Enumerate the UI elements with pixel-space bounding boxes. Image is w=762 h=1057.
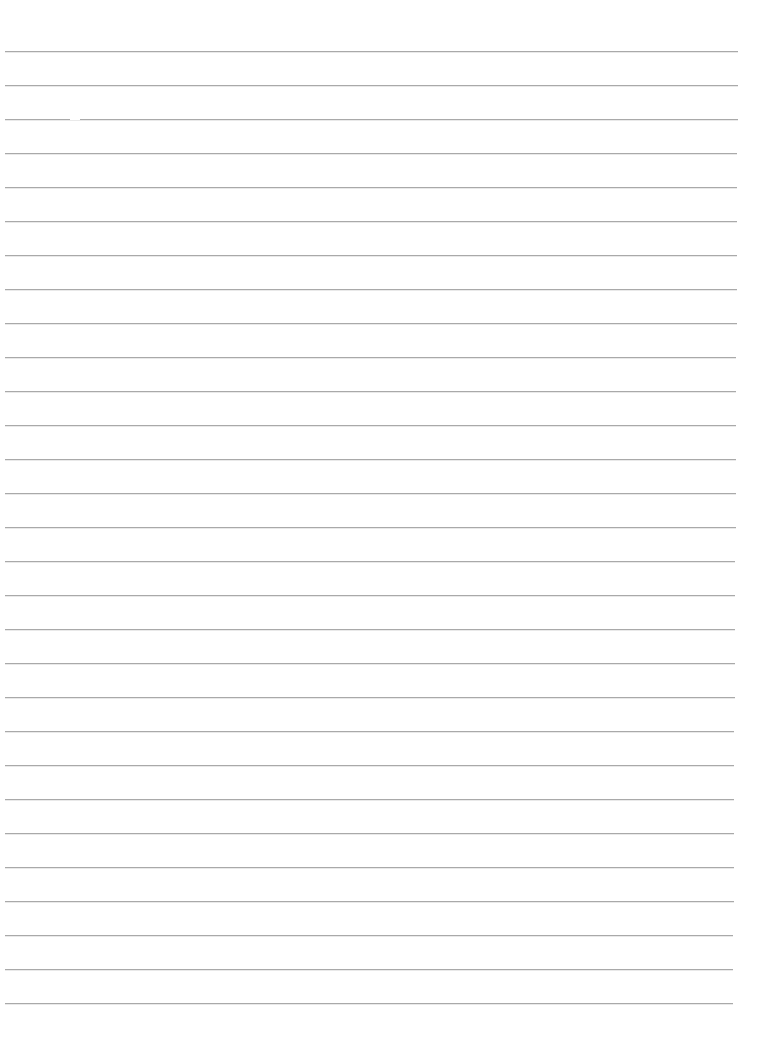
ruled-line (5, 425, 736, 426)
ruled-line (5, 119, 738, 120)
ruled-line (5, 663, 735, 664)
ruled-line (5, 459, 736, 460)
ruled-line (5, 629, 735, 630)
scan-artifact (70, 118, 80, 120)
ruled-line (5, 323, 737, 324)
ruled-line (5, 799, 734, 800)
ruled-line (5, 935, 733, 936)
ruled-line (5, 969, 733, 970)
ruled-line (5, 527, 736, 528)
ruled-line (5, 357, 736, 358)
ruled-line (5, 731, 734, 732)
ruled-line (5, 833, 734, 834)
ruled-line (5, 595, 735, 596)
ruled-line (5, 289, 737, 290)
ruled-line (5, 1003, 733, 1004)
ruled-line (5, 765, 734, 766)
ruled-line (5, 901, 734, 902)
ruled-line (5, 391, 736, 392)
ruled-line (5, 51, 738, 52)
ruled-line (5, 85, 738, 86)
ruled-line (5, 255, 737, 256)
ruled-line (5, 561, 735, 562)
ruled-line (5, 153, 737, 154)
ruled-line (5, 867, 734, 868)
ruled-line (5, 187, 737, 188)
ruled-line (5, 493, 736, 494)
ruled-line (5, 221, 737, 222)
ruled-line (5, 697, 735, 698)
ruled-paper-page (0, 0, 762, 1057)
